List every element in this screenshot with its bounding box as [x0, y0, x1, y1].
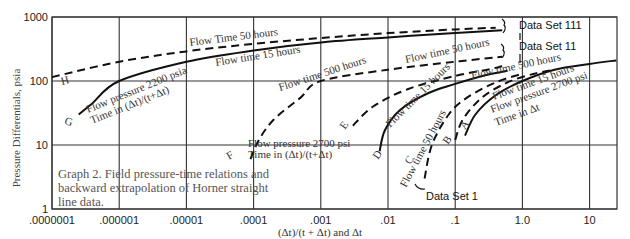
x-tick-label: .000001	[99, 214, 139, 226]
x-axis-ticks: .0000001.000001.00001.0001.001.01.11.010	[29, 214, 596, 226]
caption-line-2: backward extrapolation of Horner straigh…	[58, 181, 269, 195]
curve-label-h: H	[59, 73, 70, 87]
data-set-1-label: Data Set 1	[426, 190, 478, 202]
data-set-111-label: Data Set 111	[519, 19, 582, 31]
x-tick-label: .1	[451, 214, 460, 226]
x-tick-label: .01	[380, 214, 395, 226]
graph-caption: Graph 2. Field pressure-time relations a…	[58, 167, 270, 209]
curve-label-d: D	[370, 148, 384, 161]
horner-pressure-time-chart: 1101001000 .0000001.000001.00001.0001.00…	[0, 0, 630, 239]
caption-line-1: Graph 2. Field pressure-time relations a…	[58, 167, 270, 181]
x-tick-label: .0001	[240, 214, 268, 226]
x-axis-label: (Δt)/(t + Δt) and Δt	[278, 226, 362, 239]
x-tick-label: .0000001	[29, 214, 75, 226]
y-tick-label: 1000	[24, 11, 48, 23]
f-annotation-1: Flow time 500 hours	[277, 53, 368, 93]
curve-label-f: F	[224, 148, 235, 161]
y-tick-label: 100	[30, 75, 48, 87]
x-tick-label: .00001	[170, 214, 204, 226]
curve-label-b: B	[440, 133, 454, 146]
curve-label-g: G	[63, 114, 74, 128]
c-annotation: Flow time 50 hours	[397, 107, 448, 188]
x-tick-label: 10	[583, 214, 595, 226]
h-annotation: Flow Time 50 hours	[189, 25, 279, 48]
curve-label-a: A	[457, 118, 471, 131]
y-tick-label: 10	[36, 139, 48, 151]
y-axis-ticks: 1101001000	[24, 11, 48, 215]
e-annotation: Flow time 50 hours	[404, 35, 490, 65]
curve-label-e: E	[337, 119, 351, 132]
f-annotation-3: Time in (Δt)/(t+Δt)	[248, 148, 332, 161]
caption-line-3: line data.	[58, 195, 104, 209]
x-tick-label: 1.0	[515, 214, 530, 226]
x-tick-label: .001	[310, 214, 331, 226]
y-axis-label: Pressure Differentials, psia	[10, 69, 22, 188]
data-set-11-label: Data Set 11	[519, 40, 576, 52]
g-annotation-1: Flow time 15 hours	[214, 43, 301, 68]
